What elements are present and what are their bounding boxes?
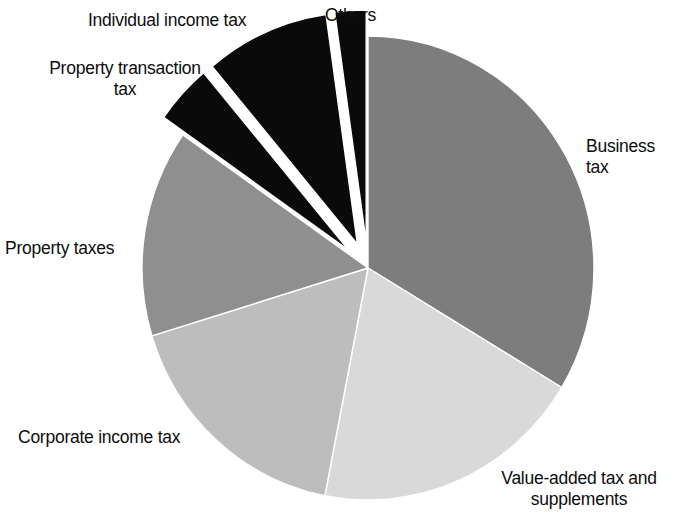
pie-label-value-added-tax: Value-added tax and supplements bbox=[481, 468, 677, 511]
pie-label-property-transaction-tax: Property transaction tax bbox=[41, 58, 209, 101]
pie-label-others: Others bbox=[325, 5, 376, 26]
pie-label-corporate-income-tax: Corporate income tax bbox=[18, 427, 180, 448]
pie-label-property-taxes: Property taxes bbox=[5, 238, 114, 259]
pie-label-business-tax: Business tax bbox=[586, 136, 682, 179]
pie-label-individual-income-tax: Individual income tax bbox=[88, 10, 246, 31]
pie-slices-group bbox=[142, 10, 594, 500]
pie-chart: Business tax Value-added tax and supplem… bbox=[0, 0, 682, 516]
